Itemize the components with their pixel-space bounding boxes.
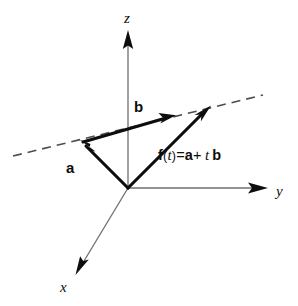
vector-figure: z y x a b f(t)=a+ t b — [0, 0, 298, 306]
vector-a-shaft — [86, 146, 128, 188]
equation-b: b — [212, 147, 221, 163]
vector-b-label: b — [134, 99, 143, 114]
y-axis-label: y — [276, 184, 283, 199]
figure-canvas — [0, 0, 298, 306]
x-axis-arrowhead — [76, 256, 89, 275]
equation-plus: + — [193, 147, 202, 163]
vector-b-shaft — [83, 118, 166, 142]
x-axis-label: x — [60, 280, 67, 295]
equation-a: a — [185, 147, 193, 163]
z-axis-label: z — [124, 11, 130, 26]
equation-ft: f(t)=a+ t b — [158, 148, 221, 163]
equation-equals: = — [176, 147, 185, 163]
vector-a-label: a — [66, 160, 74, 175]
x-axis-line — [84, 188, 128, 261]
